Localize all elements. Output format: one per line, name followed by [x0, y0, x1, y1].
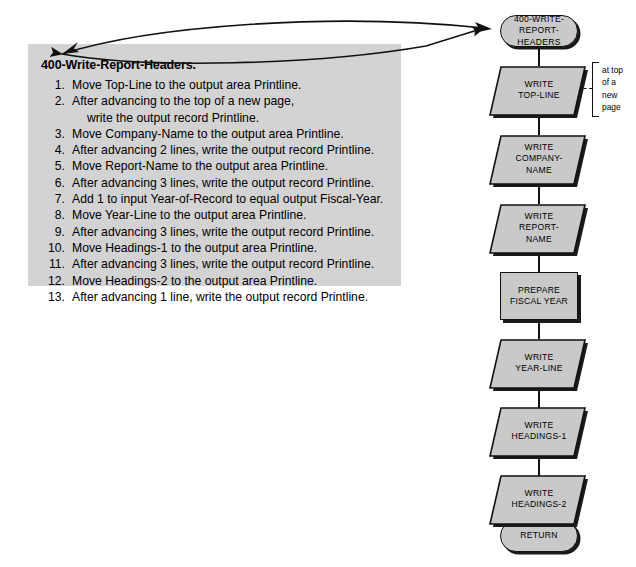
- pseudocode-step-text: Move Headings-2 to the output area Print…: [72, 273, 317, 289]
- flow-node-return-label: RETURN: [520, 530, 557, 541]
- pseudocode-step-number: 11.: [41, 256, 65, 272]
- pseudocode-step-text: Add 1 to input Year-of-Record to equal o…: [72, 191, 383, 207]
- flow-node-write-headings-1[interactable]: WRITE HEADINGS-1: [500, 407, 578, 455]
- pseudocode-step-text: After advancing 3 lines, write the outpu…: [72, 256, 374, 272]
- flow-node-write-year-line[interactable]: WRITE YEAR-LINE: [500, 339, 578, 387]
- pseudocode-step-list: 1.Move Top-Line to the output area Print…: [41, 77, 391, 305]
- pseudocode-step-number: 12.: [41, 273, 65, 289]
- flowchart-column: 400-WRITE- REPORT-HEADERS WRITE TOP-LINE…: [460, 0, 636, 567]
- flow-node-write-top-line-label: WRITE TOP-LINE: [518, 79, 559, 102]
- pseudocode-step-number: 3.: [41, 126, 65, 142]
- pseudocode-step: 4.After advancing 2 lines, write the out…: [41, 142, 391, 158]
- pseudocode-step: 10.Move Headings-1 to the output area Pr…: [41, 240, 391, 256]
- pseudocode-step-text: After advancing 1 line, write the output…: [72, 289, 368, 305]
- pseudocode-panel: 400-Write-Report-Headers. 1.Move Top-Lin…: [28, 44, 401, 286]
- flow-node-write-year-line-label: WRITE YEAR-LINE: [515, 352, 563, 375]
- flow-node-write-company-name[interactable]: WRITE COMPANY- NAME: [500, 135, 578, 183]
- pseudocode-step: 1.Move Top-Line to the output area Print…: [41, 77, 391, 93]
- flow-node-write-headings-1-label: WRITE HEADINGS-1: [511, 420, 566, 443]
- pseudocode-step-number: 4.: [41, 142, 65, 158]
- annotation-bracket: [592, 62, 599, 117]
- flow-node-prepare-fiscal-year-label: PREPARE FISCAL YEAR: [510, 285, 568, 308]
- flow-node-start[interactable]: 400-WRITE- REPORT-HEADERS: [500, 15, 578, 47]
- pseudocode-step: 8.Move Year-Line to the output area Prin…: [41, 207, 391, 223]
- diagram-page: 400-Write-Report-Headers. 1.Move Top-Lin…: [0, 0, 636, 567]
- flow-node-write-company-name-label: WRITE COMPANY- NAME: [516, 142, 563, 176]
- flow-node-start-label: 400-WRITE- REPORT-HEADERS: [501, 14, 577, 48]
- pseudocode-step: 13.After advancing 1 line, write the out…: [41, 289, 391, 305]
- connector-start-to-top-line: [538, 46, 540, 66]
- pseudocode-step-number: 2.: [41, 93, 65, 109]
- pseudocode-step-text: Move Top-Line to the output area Printli…: [72, 77, 301, 93]
- pseudocode-step: 2.After advancing to the top of a new pa…: [41, 93, 391, 109]
- connector-prepare-to-year-line: [538, 319, 540, 339]
- flow-node-write-report-name-label: WRITE REPORT- NAME: [519, 211, 559, 245]
- pseudocode-step-text: Move Headings-1 to the output area Print…: [72, 240, 317, 256]
- pseudocode-step-number: 7.: [41, 191, 65, 207]
- pseudocode-step-text: After advancing to the top of a new page…: [72, 93, 294, 109]
- pseudocode-step: 12.Move Headings-2 to the output area Pr…: [41, 273, 391, 289]
- pseudocode-step-text: After advancing 2 lines, write the outpu…: [72, 142, 374, 158]
- pseudocode-step-number: 5.: [41, 158, 65, 174]
- pseudocode-step-number: 10.: [41, 240, 65, 256]
- pseudocode-title: 400-Write-Report-Headers.: [41, 58, 196, 72]
- pseudocode-step: 6.After advancing 3 lines, write the out…: [41, 175, 391, 191]
- flow-node-write-headings-2-label: WRITE HEADINGS-2: [511, 488, 566, 511]
- pseudocode-step-number: 9.: [41, 224, 65, 240]
- pseudocode-step-text: write the output record Printline.: [87, 110, 259, 126]
- pseudocode-step-text: After advancing 3 lines, write the outpu…: [72, 224, 374, 240]
- flow-node-write-report-name[interactable]: WRITE REPORT- NAME: [500, 204, 578, 252]
- pseudocode-step-number: 6.: [41, 175, 65, 191]
- pseudocode-step: 7.Add 1 to input Year-of-Record to equal…: [41, 191, 391, 207]
- flow-node-write-top-line[interactable]: WRITE TOP-LINE: [500, 66, 578, 114]
- pseudocode-step: write the output record Printline.: [41, 110, 391, 126]
- pseudocode-step-text: After advancing 3 lines, write the outpu…: [72, 175, 374, 191]
- pseudocode-step-number: 1.: [41, 77, 65, 93]
- pseudocode-step: 3.Move Company-Name to the output area P…: [41, 126, 391, 142]
- pseudocode-step-text: Move Company-Name to the output area Pri…: [72, 126, 344, 142]
- pseudocode-step-text: Move Report-Name to the output area Prin…: [72, 158, 328, 174]
- pseudocode-step: 9.After advancing 3 lines, write the out…: [41, 224, 391, 240]
- flow-node-prepare-fiscal-year[interactable]: PREPARE FISCAL YEAR: [500, 272, 578, 320]
- flow-node-write-headings-2[interactable]: WRITE HEADINGS-2: [500, 475, 578, 523]
- pseudocode-step-number: 13.: [41, 289, 65, 305]
- pseudocode-step: 11.After advancing 3 lines, write the ou…: [41, 256, 391, 272]
- annotation-text: at top of a new page: [602, 64, 623, 113]
- pseudocode-step-number: 8.: [41, 207, 65, 223]
- pseudocode-step: 5.Move Report-Name to the output area Pr…: [41, 158, 391, 174]
- pseudocode-step-text: Move Year-Line to the output area Printl…: [72, 207, 306, 223]
